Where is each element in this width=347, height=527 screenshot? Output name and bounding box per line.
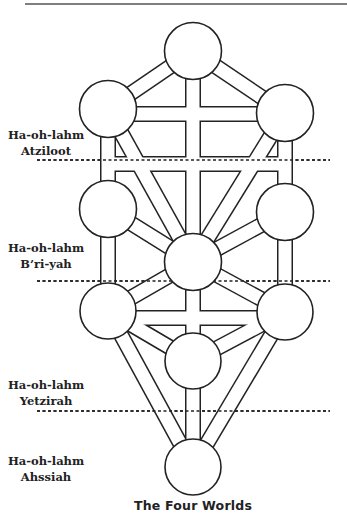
world-label-line1: Ha-oh-lahm bbox=[0, 377, 92, 393]
world-label-yetzirah: Ha-oh-lahm Yetzirah bbox=[0, 377, 92, 409]
circle-keter bbox=[165, 23, 222, 80]
world-label-atziloot: Ha-oh-lahm Atziloot bbox=[0, 127, 92, 159]
world-label-briyah: Ha-oh-lahm B’ri-yah bbox=[0, 240, 92, 272]
world-label-line1: Ha-oh-lahm bbox=[0, 240, 92, 256]
world-label-line2: Yetzirah bbox=[0, 393, 92, 409]
circle-tiferet bbox=[165, 234, 222, 291]
circle-netzach bbox=[257, 284, 313, 340]
circle-gevurah bbox=[80, 181, 137, 238]
figure-caption: The Four Worlds bbox=[0, 498, 347, 513]
circle-chokhmah bbox=[257, 85, 314, 142]
circle-malkuth bbox=[165, 439, 221, 495]
world-label-ahssiah: Ha-oh-lahm Ahssiah bbox=[0, 453, 92, 485]
world-label-line2: B’ri-yah bbox=[0, 256, 92, 272]
world-label-line1: Ha-oh-lahm bbox=[0, 453, 92, 469]
world-label-line2: Atziloot bbox=[0, 143, 92, 159]
world-label-line1: Ha-oh-lahm bbox=[0, 127, 92, 143]
world-label-line2: Ahssiah bbox=[0, 469, 92, 485]
circle-yesod bbox=[165, 333, 221, 389]
circle-hod bbox=[80, 283, 136, 339]
circle-chesed bbox=[257, 184, 314, 241]
